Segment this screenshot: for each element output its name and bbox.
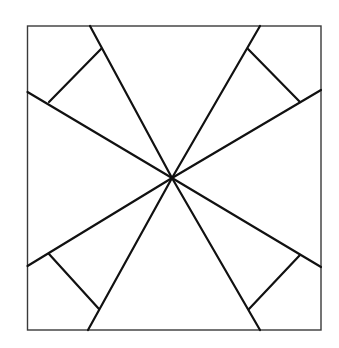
radiating-lines [28,26,322,330]
perp-bottom-right [249,255,300,309]
ray-left-upper [28,92,173,178]
ray-top-right [172,26,260,178]
ray-left-lower [28,178,173,266]
ray-bottom-left [88,178,172,330]
perp-top-left [49,49,101,102]
geometric-diagram [0,0,339,348]
perp-bottom-left [49,254,99,309]
ray-bottom-right [172,178,260,330]
ray-right-lower [172,178,321,267]
outer-square [28,26,322,330]
ray-top-left [90,26,172,178]
ray-right-upper [172,90,321,178]
perp-top-right [248,49,300,102]
